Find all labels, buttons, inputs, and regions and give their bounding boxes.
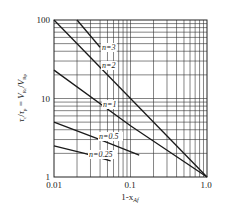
x-tick-1.0: 1.0 (200, 180, 212, 190)
curve-label: n=2 (102, 61, 115, 70)
x-axis-label: 1-xAf (121, 192, 140, 203)
svg-text:τc/τp = VRc/VRp: τc/τp = VRc/VRp (16, 73, 27, 122)
curve-label: n=0.5 (99, 132, 118, 141)
curve-label: n=1 (103, 100, 116, 109)
y-tick-100: 100 (37, 15, 51, 25)
x-tick-0.1: 0.1 (124, 180, 135, 190)
log-log-chart: n=3n=2n=1n=0.5n=0.25 100 10 1 0.01 0.1 1… (0, 0, 225, 214)
y-tick-10: 10 (41, 94, 51, 104)
curve-label: n=0.25 (89, 150, 112, 159)
x-tick-0.01: 0.01 (46, 180, 62, 190)
curve-label: n=3 (102, 43, 115, 52)
series-n-3 (77, 20, 100, 47)
y-axis-label: τc/τp = VRc/VRp (16, 73, 27, 122)
